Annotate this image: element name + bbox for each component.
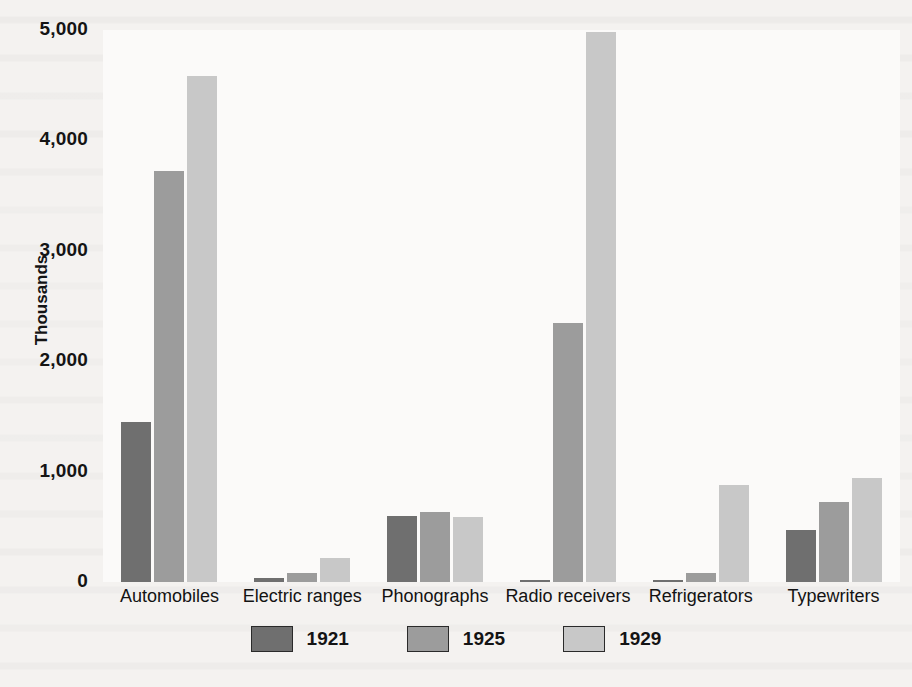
x-axis-label-radio-receivers: Radio receivers: [502, 586, 635, 607]
legend-swatch-1925: [407, 626, 449, 652]
legend-swatch-1929: [563, 626, 605, 652]
bar-typewriters-1929: [852, 478, 882, 582]
legend-label-1925: 1925: [463, 628, 505, 650]
legend-item-1929[interactable]: 1929: [563, 626, 661, 652]
bar-refrigerators-1925: [686, 573, 716, 582]
bar-radio-receivers-1921: [520, 580, 550, 582]
bar-electric-ranges-1929: [320, 558, 350, 582]
legend-item-1925[interactable]: 1925: [407, 626, 505, 652]
bar-radio-receivers-1929: [586, 32, 616, 582]
plot-area-background: [103, 30, 900, 582]
y-axis-tick-label: 0: [0, 570, 88, 592]
bar-electric-ranges-1925: [287, 573, 317, 582]
bar-automobiles-1921: [121, 422, 151, 582]
y-axis-tick-label: 5,000: [0, 18, 88, 40]
bar-electric-ranges-1921: [254, 578, 284, 582]
bar-phonographs-1921: [387, 516, 417, 582]
bar-phonographs-1925: [420, 512, 450, 582]
bar-automobiles-1925: [154, 171, 184, 582]
y-axis-tick-label: 1,000: [0, 460, 88, 482]
bar-automobiles-1929: [187, 76, 217, 582]
x-axis-label-electric-ranges: Electric ranges: [236, 586, 369, 607]
chart-page: Thousands 01,0002,0003,0004,0005,000 Aut…: [0, 0, 912, 687]
x-axis-label-phonographs: Phonographs: [369, 586, 502, 607]
bar-group: [653, 30, 749, 582]
bar-group: [121, 30, 217, 582]
legend-item-1921[interactable]: 1921: [251, 626, 349, 652]
bar-typewriters-1921: [786, 530, 816, 582]
x-axis-label-automobiles: Automobiles: [103, 586, 236, 607]
y-axis-tick-label: 4,000: [0, 128, 88, 150]
legend-swatch-1921: [251, 626, 293, 652]
legend-label-1921: 1921: [307, 628, 349, 650]
bar-phonographs-1929: [453, 517, 483, 582]
chart-legend: 192119251929: [0, 626, 912, 652]
bar-radio-receivers-1925: [553, 323, 583, 582]
bar-group: [520, 30, 616, 582]
bar-refrigerators-1921: [653, 580, 683, 582]
x-axis-label-refrigerators: Refrigerators: [634, 586, 767, 607]
bar-group: [786, 30, 882, 582]
bar-group: [387, 30, 483, 582]
x-axis-label-typewriters: Typewriters: [767, 586, 900, 607]
bar-typewriters-1925: [819, 502, 849, 582]
bar-group: [254, 30, 350, 582]
y-axis-tick-label: 3,000: [0, 239, 88, 261]
bar-refrigerators-1929: [719, 485, 749, 582]
y-axis-tick-label: 2,000: [0, 349, 88, 371]
legend-label-1929: 1929: [619, 628, 661, 650]
